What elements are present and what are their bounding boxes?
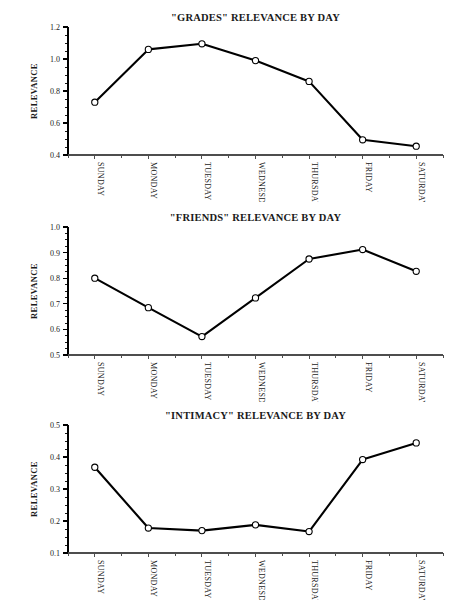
x-tick-label: SATURDAY <box>417 362 426 402</box>
x-tick-label: THURSDAY <box>310 560 319 600</box>
x-tick-label: SUNDAY <box>96 560 105 594</box>
data-point-marker <box>252 522 258 528</box>
x-tick-label: WEDNESDAY <box>257 560 266 600</box>
x-tick-label: WEDNESDAY <box>257 362 266 402</box>
y-axis-label: RELEVANCE <box>29 63 39 119</box>
data-point-marker <box>360 456 366 462</box>
y-tick-label: 1.0 <box>50 55 60 64</box>
y-tick-label: 0.9 <box>50 249 60 258</box>
y-tick-label: 0.4 <box>50 151 60 160</box>
x-tick-label: THURSDAY <box>310 162 319 202</box>
data-point-marker <box>92 275 98 281</box>
y-tick-label: 1.0 <box>50 223 60 232</box>
data-point-marker <box>306 528 312 534</box>
series-line <box>95 443 416 532</box>
x-tick-label: SATURDAY <box>417 162 426 202</box>
x-tick-label: MONDAY <box>149 362 158 399</box>
x-tick-label: THURSDAY <box>310 362 319 402</box>
data-point-marker <box>306 78 312 84</box>
chart-panel-grades: "GRADES" RELEVANCE BY DAY0.40.60.81.01.2… <box>0 0 459 202</box>
chart-title: "INTIMACY" RELEVANCE BY DAY <box>165 410 346 421</box>
x-tick-label: MONDAY <box>149 162 158 199</box>
y-tick-label: 0.1 <box>50 549 60 558</box>
y-tick-label: 0.5 <box>50 351 60 360</box>
x-tick-label: FRIDAY <box>364 362 373 393</box>
chart-title: "GRADES" RELEVANCE BY DAY <box>171 12 340 23</box>
x-tick-label: FRIDAY <box>364 560 373 591</box>
data-point-marker <box>199 333 205 339</box>
data-point-marker <box>145 46 151 52</box>
data-point-marker <box>360 246 366 252</box>
y-tick-label: 0.3 <box>50 485 60 494</box>
x-tick-label: FRIDAY <box>364 162 373 193</box>
chart-title: "FRIENDS" RELEVANCE BY DAY <box>170 212 342 223</box>
data-point-marker <box>199 41 205 47</box>
chart-svg: "FRIENDS" RELEVANCE BY DAY0.50.60.70.80.… <box>0 200 459 402</box>
y-tick-label: 1.2 <box>50 23 60 32</box>
data-point-marker <box>306 256 312 262</box>
y-tick-label: 0.8 <box>50 274 60 283</box>
y-tick-label: 0.6 <box>50 325 60 334</box>
x-tick-label: WEDNESDAY <box>257 162 266 202</box>
data-point-marker <box>252 58 258 64</box>
y-tick-label: 0.4 <box>50 453 60 462</box>
y-tick-label: 0.6 <box>50 119 60 128</box>
data-point-marker <box>360 137 366 143</box>
figure-page: "GRADES" RELEVANCE BY DAY0.40.60.81.01.2… <box>0 0 459 606</box>
chart-svg: "GRADES" RELEVANCE BY DAY0.40.60.81.01.2… <box>0 0 459 202</box>
data-point-marker <box>92 99 98 105</box>
data-point-marker <box>92 464 98 470</box>
data-point-marker <box>252 295 258 301</box>
data-point-marker <box>145 305 151 311</box>
y-axis-label: RELEVANCE <box>29 263 39 319</box>
x-tick-label: TUESDAY <box>203 362 212 401</box>
x-tick-label: TUESDAY <box>203 162 212 201</box>
y-tick-label: 0.5 <box>50 421 60 430</box>
x-tick-label: TUESDAY <box>203 560 212 599</box>
x-tick-label: SUNDAY <box>96 162 105 196</box>
x-tick-label: SATURDAY <box>417 560 426 600</box>
data-point-marker <box>145 525 151 531</box>
y-tick-label: 0.2 <box>50 517 60 526</box>
y-axis-label: RELEVANCE <box>29 461 39 517</box>
y-tick-label: 0.7 <box>50 300 60 309</box>
y-tick-label: 0.8 <box>50 87 60 96</box>
data-point-marker <box>413 440 419 446</box>
chart-panel-intimacy: "INTIMACY" RELEVANCE BY DAY0.10.20.30.40… <box>0 398 459 600</box>
data-point-marker <box>413 268 419 274</box>
x-tick-label: MONDAY <box>149 560 158 597</box>
series-line <box>95 250 416 337</box>
x-tick-label: SUNDAY <box>96 362 105 396</box>
chart-panel-friends: "FRIENDS" RELEVANCE BY DAY0.50.60.70.80.… <box>0 200 459 402</box>
data-point-marker <box>199 528 205 534</box>
chart-svg: "INTIMACY" RELEVANCE BY DAY0.10.20.30.40… <box>0 398 459 600</box>
data-point-marker <box>413 143 419 149</box>
